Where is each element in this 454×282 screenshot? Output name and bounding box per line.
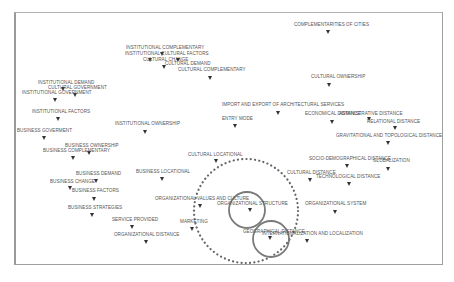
triangle-marker-icon [345, 164, 349, 168]
triangle-marker-icon [330, 120, 334, 124]
node-label-organizational-distance: ORGANIZATIONAL DISTANCE [114, 232, 179, 237]
node-label-organizational-structure: ORGANIZATIONAL STRUCTURE [217, 201, 288, 206]
node-label-internationalization-and-localization: INTERNATIONALIZATION AND LOCALIZATION [262, 231, 363, 236]
triangle-marker-icon [308, 178, 312, 182]
node-label-import-and-export-of-architectural-services: IMPORT AND EXPORT OF ARCHITECTURAL SERVI… [222, 102, 344, 107]
node-label-relational-distance: RELATIONAL DISTANCE [367, 119, 420, 124]
node-label-institutional-government: INSTITUTIONAL GOVERNMENT [22, 90, 92, 95]
node-label-globalization: GLOBALIZATION [373, 158, 410, 163]
dotted-cluster-circle [194, 159, 298, 263]
triangle-marker-icon [214, 159, 218, 163]
node-label-business-complementary: BUSINESS COMPLEMENTARY [43, 148, 110, 153]
triangle-marker-icon [305, 239, 309, 243]
triangle-marker-icon [198, 204, 202, 208]
node-label-institutional-complementary: INSTITUTIONAL COMPLEMENTARY [126, 45, 204, 50]
node-label-cultural-locational: CULTURAL LOCATIONAL [188, 152, 243, 157]
node-label-institutional-factors: INSTITUTIONAL FACTORS [32, 109, 90, 114]
node-label-entry-mode: ENTRY MODE [222, 116, 253, 121]
triangle-marker-icon [56, 117, 60, 121]
node-label-complementarities-of-cities: COMPLEMENTARITIES OF CITIES [294, 22, 369, 27]
triangle-marker-icon [71, 156, 75, 160]
triangle-marker-icon [92, 197, 96, 201]
triangle-marker-icon [144, 240, 148, 244]
triangle-marker-icon [268, 236, 272, 240]
triangle-marker-icon [42, 136, 46, 140]
triangle-marker-icon [386, 141, 390, 145]
node-label-service-provided: SERVICE PROVIDED [112, 217, 158, 222]
node-label-business-change: BUSINESS CHANGE [50, 179, 95, 184]
triangle-marker-icon [233, 124, 237, 128]
node-label-business-locational: BUSINESS LOCATIONAL [136, 169, 190, 174]
triangle-marker-icon [347, 182, 351, 186]
node-label-business-goverment: BUSINESS GOVERMENT [17, 128, 72, 133]
triangle-marker-icon [208, 76, 212, 80]
node-label-organizational-system: ORGANIZATIONAL SYSTEM [305, 201, 366, 206]
triangle-marker-icon [190, 227, 194, 231]
triangle-marker-icon [162, 65, 166, 69]
node-label-cultural-demand: CULTURAL DEMAND [165, 61, 211, 66]
triangle-marker-icon [326, 30, 330, 34]
node-label-business-demand: BUSINESS DEMAND [76, 171, 121, 176]
node-label-cultural-ownership: CULTURAL OWNERSHIP [311, 74, 365, 79]
node-label-technological-distance: TECHNOLOGICAL DISTANCE [316, 174, 380, 179]
triangle-marker-icon [90, 213, 94, 217]
node-label-business-strategies: BUSINESS STRATEGIES [68, 205, 122, 210]
triangle-marker-icon [160, 177, 164, 181]
triangle-marker-icon [276, 111, 280, 115]
triangle-marker-icon [327, 83, 331, 87]
triangle-marker-icon [68, 186, 72, 190]
node-label-gravitational-and-topological-distance: GRAVITATIONAL AND TOPOLOGICAL DISTANCE [336, 133, 442, 138]
node-label-business-factors: BUSINESS FACTORS [72, 188, 119, 193]
triangle-marker-icon [333, 210, 337, 214]
triangle-marker-icon [143, 130, 147, 134]
triangle-marker-icon [386, 167, 390, 171]
node-label-institutional-cultural-factors: INSTITUTIONAL CULTURAL FACTORS [125, 51, 209, 56]
triangle-marker-icon [393, 126, 397, 130]
triangle-marker-icon [130, 225, 134, 229]
node-label-cultural-complementary: CULTURAL COMPLEMENTARY [178, 67, 246, 72]
node-label-marketing: MARKETING [180, 219, 208, 224]
triangle-marker-icon [248, 208, 252, 212]
node-label-institutional-ownership: INSTITUTIONAL OWNERSHIP [115, 121, 180, 126]
node-label-administrative-distance: ADMINISTRATIVE DISTANCE [339, 111, 403, 116]
triangle-marker-icon [53, 98, 57, 102]
